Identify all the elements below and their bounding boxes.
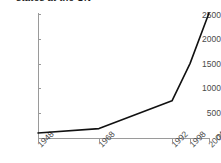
series-plot (0, 0, 221, 163)
line-chart: states at the UN 2500 2000 1500 1000 500… (0, 0, 221, 163)
series-line-states-at-the-un (38, 13, 209, 133)
